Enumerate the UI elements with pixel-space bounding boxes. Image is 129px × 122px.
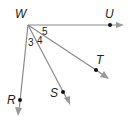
angle-label-5: 5 <box>42 26 48 37</box>
label-s: S <box>50 86 58 100</box>
arrow-s-icon <box>64 96 70 105</box>
label-w: W <box>15 7 28 21</box>
arrow-t-icon <box>100 71 109 79</box>
point-r <box>18 98 22 102</box>
arrow-r-icon <box>15 107 22 116</box>
arrow-u-icon <box>116 22 124 28</box>
angle-label-3: 3 <box>28 37 34 48</box>
geometry-diagram: W U T S R 3 4 5 <box>0 0 129 122</box>
ray-ws <box>28 25 68 101</box>
label-t: T <box>96 53 105 67</box>
ray-wt <box>28 25 105 76</box>
point-u <box>108 23 112 27</box>
label-r: R <box>7 93 16 107</box>
point-t <box>94 68 98 72</box>
label-u: U <box>105 7 114 21</box>
point-s <box>61 90 65 94</box>
